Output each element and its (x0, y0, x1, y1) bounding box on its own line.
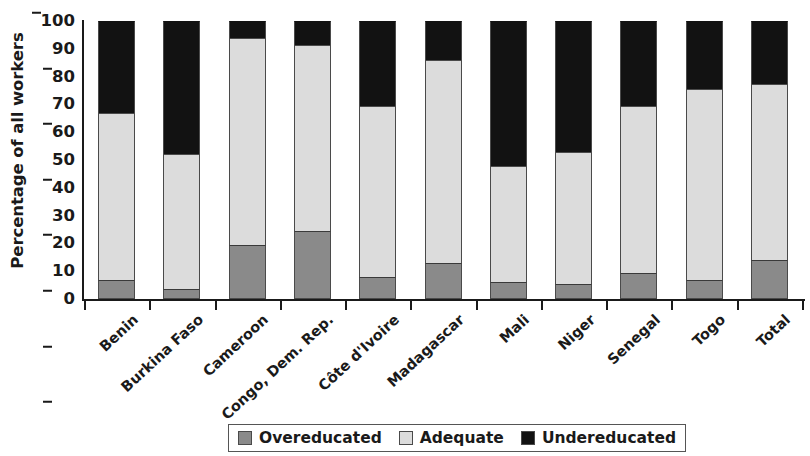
bar-segment-undereducated[interactable] (359, 21, 396, 106)
x-axis-tick-mark (84, 300, 86, 310)
bar-segment-overeducated[interactable] (490, 282, 527, 299)
bar-segment-adequate[interactable] (425, 60, 462, 263)
x-axis-tick-mark (149, 300, 151, 310)
bar-segment-overeducated[interactable] (425, 263, 462, 299)
y-axis-tick-label: 50 (52, 152, 84, 169)
y-axis-tick-mark (43, 290, 52, 292)
x-axis-tick-mark (410, 300, 412, 310)
stacked-bar[interactable] (555, 21, 592, 299)
y-axis-tick-mark (43, 345, 52, 347)
legend-item[interactable]: Adequate (399, 429, 504, 447)
y-axis-tick-label: 0 (64, 291, 84, 308)
y-axis-title-text: Percentage of all workers (8, 32, 27, 268)
bar-segment-overeducated[interactable] (620, 273, 657, 299)
x-axis-category-label: Mali (497, 312, 532, 346)
y-axis-tick-label: 70 (52, 96, 84, 113)
legend-swatch-icon (399, 431, 413, 445)
y-axis-tick-mark (43, 401, 52, 403)
x-axis-tick-mark (541, 300, 543, 310)
x-axis-tick-mark (737, 300, 739, 310)
x-axis-tick-mark (606, 300, 608, 310)
bar-segment-overeducated[interactable] (359, 277, 396, 299)
y-axis-tick-label: 60 (52, 124, 84, 141)
bar-segment-adequate[interactable] (163, 154, 200, 289)
bar-segment-overeducated[interactable] (98, 280, 135, 299)
stacked-bar[interactable] (229, 21, 266, 299)
plot-area: 0102030405060708090100 (84, 21, 802, 299)
stacked-bar[interactable] (359, 21, 396, 299)
legend-swatch-icon (521, 431, 535, 445)
bar-segment-adequate[interactable] (98, 113, 135, 280)
x-axis-category-label: Niger (555, 312, 597, 353)
y-axis-title: Percentage of all workers (0, 0, 34, 300)
x-axis-tick-mark (345, 300, 347, 310)
y-axis-tick-mark (32, 12, 41, 14)
bar-segment-overeducated[interactable] (686, 280, 723, 299)
x-axis-tick-mark (215, 300, 217, 310)
bar-segment-overeducated[interactable] (163, 289, 200, 299)
x-axis-tick-mark (671, 300, 673, 310)
chart-legend: OvereducatedAdequateUndereducated (228, 424, 686, 452)
stacked-bar[interactable] (751, 21, 788, 299)
bar-segment-undereducated[interactable] (686, 21, 723, 89)
legend-swatch-icon (238, 431, 252, 445)
y-axis-tick-label: 20 (52, 235, 84, 252)
x-axis-tick-mark (280, 300, 282, 310)
y-axis-tick-mark (43, 123, 52, 125)
bar-segment-undereducated[interactable] (490, 21, 527, 166)
legend-label: Overeducated (259, 429, 382, 447)
y-axis-tick-label: 100 (41, 13, 84, 30)
x-axis-line (84, 299, 805, 301)
legend-item[interactable]: Overeducated (238, 429, 382, 447)
bar-segment-adequate[interactable] (359, 106, 396, 277)
y-axis-tick-label: 30 (52, 207, 84, 224)
x-axis-category-label: Benin (97, 312, 141, 354)
bar-segment-overeducated[interactable] (229, 245, 266, 299)
bar-segment-undereducated[interactable] (294, 21, 331, 45)
x-axis-category-label: Cameroon (201, 312, 271, 379)
y-axis-tick-mark (43, 67, 52, 69)
bar-segment-adequate[interactable] (555, 152, 592, 284)
stacked-bar[interactable] (686, 21, 723, 299)
bar-segment-undereducated[interactable] (425, 21, 462, 60)
bar-segment-adequate[interactable] (620, 106, 657, 273)
legend-label: Adequate (420, 429, 504, 447)
y-axis-tick-label: 10 (52, 263, 84, 280)
x-axis-category-label: Togo (690, 312, 728, 349)
stacked-bar[interactable] (98, 21, 135, 299)
bar-segment-undereducated[interactable] (555, 21, 592, 152)
bar-segment-overeducated[interactable] (751, 260, 788, 299)
stacked-bar[interactable] (620, 21, 657, 299)
x-axis-tick-mark (802, 300, 804, 310)
legend-item[interactable]: Undereducated (521, 429, 676, 447)
x-axis-category-label: Congo, Dem. Rep. (219, 312, 336, 422)
x-axis-category-label: Total (754, 312, 793, 350)
y-axis-tick-mark (43, 234, 52, 236)
bar-segment-undereducated[interactable] (98, 21, 135, 113)
y-axis-tick-label: 40 (52, 180, 84, 197)
bar-segment-undereducated[interactable] (620, 21, 657, 106)
bar-segment-undereducated[interactable] (751, 21, 788, 84)
legend-label: Undereducated (542, 429, 676, 447)
bar-segment-adequate[interactable] (751, 84, 788, 261)
x-axis-tick-mark (476, 300, 478, 310)
x-axis-category-label: Senegal (605, 312, 663, 367)
bar-segment-adequate[interactable] (490, 166, 527, 283)
y-axis-tick-mark (43, 179, 52, 181)
bar-segment-overeducated[interactable] (294, 231, 331, 299)
stacked-bar[interactable] (294, 21, 331, 299)
y-axis-tick-label: 80 (52, 68, 84, 85)
bar-segment-undereducated[interactable] (163, 21, 200, 154)
bar-segment-adequate[interactable] (686, 89, 723, 279)
stacked-bar[interactable] (425, 21, 462, 299)
bar-segment-overeducated[interactable] (555, 284, 592, 299)
stacked-bar[interactable] (163, 21, 200, 299)
bar-segment-adequate[interactable] (229, 38, 266, 245)
y-axis-tick-label: 90 (52, 41, 84, 58)
stacked-bar[interactable] (490, 21, 527, 299)
bar-segment-adequate[interactable] (294, 45, 331, 231)
bar-segment-undereducated[interactable] (229, 21, 266, 38)
